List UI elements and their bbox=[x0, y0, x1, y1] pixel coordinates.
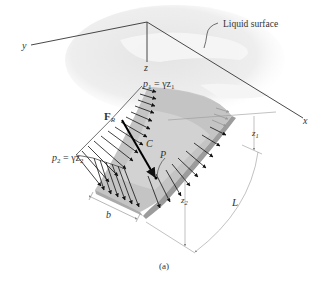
z2-label: z2 bbox=[180, 195, 189, 206]
axis-z-label: z bbox=[143, 62, 148, 73]
dimension-b-label: b bbox=[106, 209, 111, 220]
center-of-pressure-point bbox=[155, 177, 158, 180]
L-label: L bbox=[231, 196, 238, 208]
center-of-pressure-label: P bbox=[159, 149, 166, 160]
axis-y-label: y bbox=[21, 40, 27, 51]
centroid-label: C bbox=[146, 138, 153, 149]
resultant-force-label: FR bbox=[104, 110, 116, 124]
p2-label: p2 = γz2 bbox=[51, 152, 84, 165]
axis-x-label: x bbox=[302, 115, 308, 126]
hydrostatic-curved-surface-diagram: y x z Liquid surface bbox=[0, 0, 332, 290]
figure-caption: (a) bbox=[159, 261, 169, 271]
liquid-surface-label: Liquid surface bbox=[223, 19, 278, 29]
z1-label: z1 bbox=[251, 128, 259, 139]
